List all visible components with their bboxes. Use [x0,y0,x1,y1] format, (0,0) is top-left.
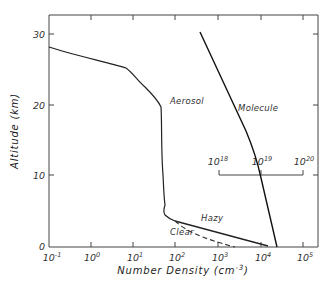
x-tick-1e2: 102 [169,251,185,263]
chart-figure: 0 10 20 30 10-1 100 101 102 103 104 105 … [0,0,335,290]
x-tick-1e0: 100 [84,251,100,263]
sec-tick-1e18: 1018 [208,155,228,167]
molecule-scale-bar [219,170,303,175]
y-axis-title: Altitude (km) [9,93,20,170]
x-tick-1e3: 103 [212,251,228,263]
series-aerosol-line [49,47,175,221]
y-tick-30: 30 [33,29,45,40]
y-tick-labels: 0 10 20 30 [33,29,45,252]
sec-tick-1e20: 1020 [294,155,314,167]
y-tick-10: 10 [33,170,45,181]
label-clear: Clear [170,227,194,237]
x-tick-1e1: 101 [127,251,143,263]
label-aerosol: Aerosol [169,96,204,106]
tick-marks [49,15,318,247]
x-axis-title: Number Density (cm-3) [117,264,248,276]
x-tick-1e-1: 10-1 [43,251,62,263]
plot-frame [49,15,318,247]
label-hazy: Hazy [201,213,224,223]
y-tick-0: 0 [39,241,45,252]
x-tick-1e4: 104 [255,251,271,263]
molecule-scale-labels: 1018 1019 1020 [208,155,314,167]
x-tick-1e5: 105 [297,251,313,263]
figure-caption-cutoff [0,283,335,290]
label-molecule: Molecule [238,103,278,113]
x-tick-labels: 10-1 100 101 102 103 104 105 [43,251,313,263]
y-tick-20: 20 [33,100,45,111]
